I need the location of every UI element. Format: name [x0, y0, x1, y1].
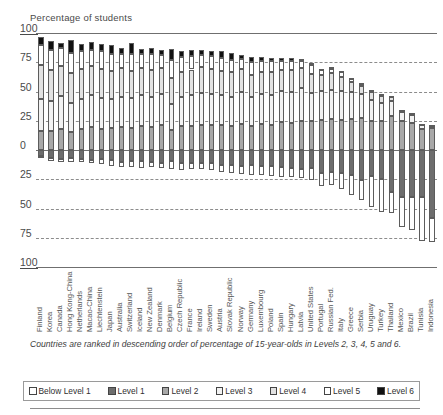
bar-segment: [259, 72, 264, 94]
bar-segment: [199, 93, 204, 125]
bar-segment: [279, 61, 284, 70]
bar-segment: [259, 124, 264, 150]
legend-item[interactable]: Level 5: [324, 386, 361, 396]
bar-segment: [249, 75, 254, 98]
legend-item[interactable]: Below Level 1: [29, 386, 91, 396]
bar-segment: [279, 167, 284, 176]
bar-segment: [279, 91, 284, 123]
bar-segment: [409, 113, 414, 115]
bar-segment: [339, 150, 344, 173]
x-axis-label: Tunisia: [416, 308, 425, 332]
bar-segment: [89, 150, 94, 160]
bar-segment: [119, 97, 124, 127]
bar-segment: [149, 127, 154, 150]
bar-segment: [269, 95, 274, 125]
bar-segment: [79, 99, 84, 129]
bar-segment: [289, 168, 294, 177]
bar-segment: [159, 50, 164, 55]
legend-swatch-icon: [324, 387, 332, 395]
bar-segment: [58, 96, 63, 129]
bar-segment: [379, 94, 384, 96]
x-axis-label: Russian Fed.: [326, 287, 335, 332]
bar-column: [68, 33, 73, 267]
bar-segment: [199, 67, 204, 93]
bar-segment: [329, 90, 334, 120]
bar-segment: [68, 53, 73, 73]
bar-column: [359, 33, 364, 267]
legend-swatch-icon: [162, 387, 170, 395]
x-axis-label: New Zealand: [145, 287, 154, 332]
bar-segment: [58, 150, 63, 159]
bar-segment: [289, 150, 294, 168]
bar-segment: [129, 98, 134, 127]
bar-segment: [409, 123, 414, 150]
bar-segment: [169, 130, 174, 150]
bar-segment: [259, 166, 264, 175]
x-axis-label: Norway: [236, 306, 245, 332]
bar-segment: [159, 55, 164, 68]
bar-segment: [149, 54, 154, 69]
x-axis-label: Czech Republic: [175, 279, 184, 332]
x-axis-label: Switzerland: [125, 293, 134, 332]
bar-segment: [199, 55, 204, 67]
bar-segment: [169, 78, 174, 104]
x-axis-label: Belgium: [165, 305, 174, 332]
bar-segment: [409, 197, 414, 230]
bar-segment: [299, 169, 304, 178]
bar-segment: [219, 150, 224, 165]
bar-segment: [419, 197, 424, 242]
legend-swatch-icon: [270, 387, 278, 395]
bar-segment: [409, 150, 414, 197]
x-axis-label: Macao-China: [85, 287, 94, 332]
bar-segment: [359, 94, 364, 118]
bar-segment: [419, 150, 424, 197]
bar-segment: [38, 65, 43, 99]
bar-segment: [169, 161, 174, 169]
legend-item[interactable]: Level 3: [216, 386, 253, 396]
bar-segment: [189, 163, 194, 170]
bar-segment: [249, 126, 254, 150]
bar-segment: [89, 95, 94, 127]
bar-segment: [349, 92, 354, 119]
bar-segment: [279, 150, 284, 167]
legend-label: Level 1: [118, 386, 145, 396]
legend-item[interactable]: Level 1: [108, 386, 145, 396]
bar-column: [389, 33, 394, 267]
bar-segment: [329, 73, 334, 89]
x-axis-label: Brazil: [406, 313, 415, 332]
bar-segment: [299, 88, 304, 121]
bar-column: [409, 33, 414, 267]
bar-segment: [349, 175, 354, 196]
y-tick-label: 100: [20, 22, 38, 35]
bar-segment: [419, 124, 424, 126]
legend-item[interactable]: Level 6: [377, 386, 414, 396]
bar-column: [309, 33, 314, 267]
bar-segment: [109, 99, 114, 129]
bar-segment: [229, 97, 234, 127]
bar-segment: [109, 54, 114, 71]
bar-segment: [349, 82, 354, 92]
bar-segment: [399, 110, 404, 112]
bar-segment: [159, 125, 164, 150]
bar-segment: [38, 45, 43, 65]
bar-segment: [289, 92, 294, 123]
x-axis-label: Iceland: [135, 308, 144, 333]
bar-segment: [239, 55, 244, 59]
bar-segment: [239, 92, 244, 124]
bar-segment: [119, 54, 124, 68]
bar-segment: [159, 94, 164, 125]
legend-item[interactable]: Level 2: [162, 386, 199, 396]
bar-segment: [189, 126, 194, 150]
bar-segment: [379, 96, 384, 103]
bar-segment: [339, 120, 344, 150]
x-axis-label: Greece: [346, 307, 355, 332]
legend-swatch-icon: [377, 387, 385, 395]
bar-column: [379, 33, 384, 267]
bar-segment: [58, 159, 63, 162]
bar-segment: [419, 129, 424, 150]
bar-segment: [99, 69, 104, 99]
bar-segment: [429, 150, 434, 218]
bar-segment: [179, 57, 184, 71]
bar-segment: [359, 118, 364, 150]
legend-item[interactable]: Level 4: [270, 386, 307, 396]
